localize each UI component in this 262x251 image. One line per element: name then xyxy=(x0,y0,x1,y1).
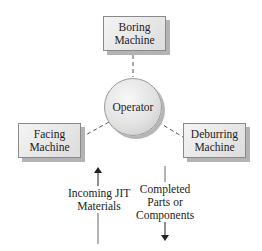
deburring-machine-line2: Machine xyxy=(191,141,238,154)
operator-node: Operator xyxy=(104,78,162,136)
incoming-line2: Materials xyxy=(68,200,130,213)
incoming-materials-label: Incoming JIT Materials xyxy=(68,187,130,213)
facing-machine-line1: Facing xyxy=(29,128,69,141)
boring-machine-line2: Machine xyxy=(114,34,154,47)
outgoing-line2: Parts or xyxy=(136,196,194,209)
operator-label: Operator xyxy=(113,101,154,113)
completed-parts-label: Completed Parts or Components xyxy=(136,183,194,222)
outgoing-line3: Components xyxy=(136,209,194,222)
boring-machine-node: Boring Machine xyxy=(103,16,166,51)
facing-machine-node: Facing Machine xyxy=(18,123,81,158)
outgoing-line1: Completed xyxy=(136,183,194,196)
edge-operator-facing xyxy=(82,122,109,137)
boring-machine-line1: Boring xyxy=(114,21,154,34)
facing-machine-line2: Machine xyxy=(29,141,69,154)
deburring-machine-line1: Deburring xyxy=(191,128,238,141)
incoming-line1: Incoming JIT xyxy=(68,187,130,200)
edge-operator-deburring xyxy=(158,122,183,137)
deburring-machine-node: Deburring Machine xyxy=(183,123,246,158)
work-cell-diagram: Boring Machine Operator Facing Machine D… xyxy=(0,0,262,251)
